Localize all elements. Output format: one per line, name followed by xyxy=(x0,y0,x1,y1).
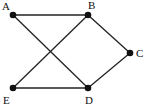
node-e xyxy=(10,85,17,92)
node-a xyxy=(10,12,17,19)
edge-c-d xyxy=(88,53,130,88)
graph-labels: ABCED xyxy=(2,0,143,106)
node-c xyxy=(127,50,134,57)
node-label-e: E xyxy=(3,94,10,106)
node-label-d: D xyxy=(85,94,93,106)
node-label-c: C xyxy=(136,47,143,59)
node-label-a: A xyxy=(2,0,10,12)
node-label-b: B xyxy=(88,0,95,11)
node-b xyxy=(85,12,92,19)
graph-nodes xyxy=(10,12,134,92)
edge-b-c xyxy=(88,15,130,53)
node-d xyxy=(85,85,92,92)
graph-edges xyxy=(13,15,130,88)
graph-diagram: ABCED xyxy=(0,0,151,107)
